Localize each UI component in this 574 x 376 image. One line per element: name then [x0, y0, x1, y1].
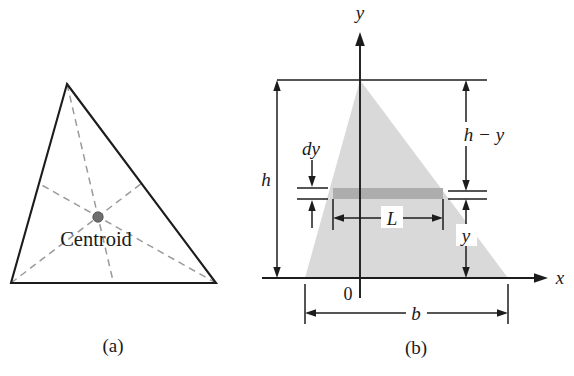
- triangle-outline-a: [11, 84, 216, 283]
- dimension-L-label: L: [386, 208, 398, 229]
- dimension-dy-label: dy: [302, 138, 321, 159]
- x-axis-label: x: [555, 267, 565, 288]
- dimension-y-label: y: [460, 225, 471, 246]
- dimension-b-label: b: [411, 303, 421, 324]
- dimension-h-arrow-top: [273, 80, 280, 91]
- dimension-b-arrow-left: [305, 309, 316, 316]
- x-axis-arrowhead: [534, 273, 548, 283]
- dimension-h: h: [261, 80, 280, 278]
- centroid-label: Centroid: [60, 228, 132, 250]
- differential-strip: [333, 188, 443, 199]
- shaded-triangle-b: [305, 80, 508, 278]
- dimension-b: b: [305, 284, 508, 324]
- dimension-h-minus-y: h − y: [448, 80, 518, 191]
- dy-arrowhead-lower: [308, 200, 315, 211]
- dimension-y-arrow-top: [462, 199, 469, 210]
- dimension-h-label: h: [261, 169, 271, 190]
- y-axis-arrowhead: [355, 32, 365, 46]
- centroid-dot: [93, 212, 103, 222]
- dimension-b-arrow-right: [497, 309, 508, 316]
- dimension-h-minus-y-label: h − y: [464, 124, 505, 145]
- dy-arrowhead-upper: [308, 176, 315, 187]
- dimension-h-arrow-bottom: [273, 267, 280, 278]
- dimension-h-minus-y-arrow-top: [462, 80, 469, 91]
- y-axis-label: y: [354, 2, 365, 23]
- median-lines: [11, 84, 216, 283]
- figure-svg: Centroid (a) y x 0: [0, 0, 574, 376]
- figure-root: Centroid (a) y x 0: [0, 0, 574, 376]
- panel-b-group: y x 0 h: [261, 2, 565, 359]
- panel-a-group: Centroid (a): [11, 84, 216, 357]
- dimension-h-minus-y-arrow-bottom: [462, 180, 469, 191]
- panel-a-caption: (a): [102, 335, 123, 357]
- origin-label: 0: [344, 284, 353, 304]
- panel-b-caption: (b): [405, 337, 427, 359]
